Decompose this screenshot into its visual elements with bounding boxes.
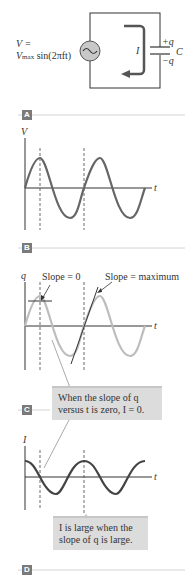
graph-charge: [25, 282, 152, 468]
graph-b-x-label: t: [154, 182, 157, 193]
slope-max-annotation: Slope = maximum: [105, 271, 179, 282]
source-equation-line1: V =: [16, 38, 31, 49]
graph-current: [25, 446, 152, 515]
diagram-canvas: [0, 0, 193, 584]
graph-voltage: [25, 138, 152, 230]
panel-label-a: A: [22, 110, 32, 120]
graph-d-y-label: I: [23, 434, 26, 445]
callout-current-large: I is large when the slope of q is large.: [53, 516, 148, 550]
capacitor-minus-label: −q: [162, 55, 174, 66]
callout-slope-zero: When the slope of q versus t is zero, I …: [52, 386, 162, 420]
callout-1-line1: When the slope of q: [58, 392, 156, 404]
slope-zero-annotation: Slope = 0: [42, 271, 80, 282]
graph-b-y-label: V: [21, 126, 27, 137]
callout-2-line2: slope of q is large.: [59, 534, 142, 546]
source-equation-line2: Vmax sin(2πft): [16, 50, 71, 63]
panel-label-b: B: [22, 243, 32, 253]
callout-2-line1: I is large when the: [59, 522, 142, 534]
current-arrow: [124, 26, 144, 74]
graph-c-y-label: q: [21, 270, 26, 281]
graph-c-x-label: t: [154, 320, 157, 331]
callout-1-line2: versus t is zero, I = 0.: [58, 404, 156, 416]
current-label: I: [136, 45, 139, 56]
capacitor-plus-label: +q: [162, 36, 174, 47]
panel-label-d: D: [22, 565, 32, 575]
circuit: [80, 13, 170, 88]
graph-d-x-label: t: [154, 471, 157, 482]
panel-label-c: C: [22, 405, 32, 415]
capacitor-label: C: [176, 46, 183, 57]
